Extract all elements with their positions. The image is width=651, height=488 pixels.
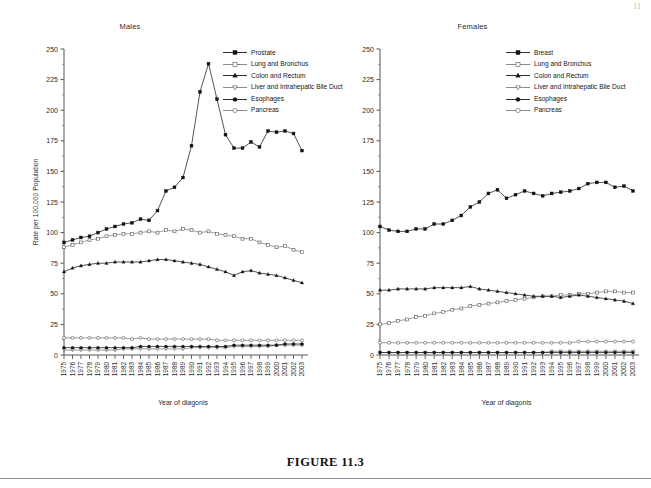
- filled-square-marker-icon: [222, 47, 248, 58]
- open-square-marker-icon: [222, 59, 248, 70]
- svg-text:250: 250: [46, 46, 58, 53]
- svg-text:25: 25: [50, 321, 58, 328]
- legend-item[interactable]: Lung and Bronchus: [505, 59, 626, 71]
- svg-text:Year of diagonis: Year of diagonis: [482, 399, 532, 407]
- svg-text:1995: 1995: [557, 362, 564, 377]
- svg-text:1984: 1984: [458, 362, 465, 377]
- legend-label: Esophages: [248, 96, 284, 103]
- svg-text:1980: 1980: [103, 362, 110, 377]
- legend-label: Colon and Rectum: [248, 73, 306, 80]
- svg-text:100: 100: [46, 229, 58, 236]
- legend-item[interactable]: Prostate: [222, 47, 343, 59]
- svg-text:200: 200: [46, 107, 58, 114]
- svg-text:1987: 1987: [162, 362, 169, 377]
- open-triangle-down-marker-icon: [505, 82, 531, 93]
- legend-item[interactable]: Pancreas: [505, 105, 626, 117]
- svg-text:100: 100: [362, 229, 374, 236]
- svg-text:150: 150: [362, 168, 374, 175]
- svg-text:250: 250: [362, 46, 374, 53]
- svg-text:2003: 2003: [629, 362, 636, 377]
- open-triangle-down-marker-icon: [222, 82, 248, 93]
- filled-circle-marker-icon: [505, 94, 531, 105]
- svg-text:1977: 1977: [77, 362, 84, 377]
- legend-item[interactable]: Liver and Intrahepatic Bile Duct: [222, 82, 343, 94]
- svg-text:1975: 1975: [60, 362, 67, 377]
- legend-label: Lung and Bronchus: [248, 61, 308, 68]
- svg-text:1983: 1983: [128, 362, 135, 377]
- svg-text:1976: 1976: [385, 362, 392, 377]
- legend-label: Pancreas: [531, 107, 562, 114]
- svg-text:225: 225: [362, 76, 374, 83]
- svg-text:75: 75: [366, 260, 374, 267]
- filled-circle-marker-icon: [222, 94, 248, 105]
- svg-text:1979: 1979: [413, 362, 420, 377]
- svg-text:2000: 2000: [602, 362, 609, 377]
- svg-text:1978: 1978: [404, 362, 411, 377]
- legend-label: Pancreas: [248, 107, 279, 114]
- svg-text:1998: 1998: [256, 362, 263, 377]
- legend-label: Lung and Bronchus: [531, 61, 591, 68]
- svg-text:1978: 1978: [86, 362, 93, 377]
- svg-text:1976: 1976: [69, 362, 76, 377]
- svg-text:1982: 1982: [440, 362, 447, 377]
- legend-item[interactable]: Pancreas: [222, 105, 343, 117]
- svg-text:1992: 1992: [530, 362, 537, 377]
- svg-text:1989: 1989: [179, 362, 186, 377]
- figure-caption: FIGURE 11.3: [0, 455, 651, 470]
- legend-item[interactable]: Breast: [505, 47, 626, 59]
- svg-text:150: 150: [46, 168, 58, 175]
- svg-text:Rate per 100,000 Population: Rate per 100,000 Population: [32, 159, 40, 246]
- svg-text:50: 50: [50, 290, 58, 297]
- legend-males: ProstateLung and BronchusColon and Rectu…: [222, 47, 343, 117]
- svg-text:25: 25: [366, 321, 374, 328]
- svg-text:1990: 1990: [512, 362, 519, 377]
- open-square-marker-icon: [505, 59, 531, 70]
- legend-item[interactable]: Colon and Rectum: [505, 70, 626, 82]
- svg-text:1988: 1988: [494, 362, 501, 377]
- svg-text:2003: 2003: [298, 362, 305, 377]
- svg-text:1997: 1997: [247, 362, 254, 377]
- svg-text:1980: 1980: [422, 362, 429, 377]
- svg-text:1999: 1999: [264, 362, 271, 377]
- svg-text:1981: 1981: [111, 362, 118, 377]
- svg-text:1993: 1993: [539, 362, 546, 377]
- legend-label: Liver and Intrahepatic Bile Duct: [531, 84, 626, 91]
- svg-text:0: 0: [54, 352, 58, 359]
- legend-item[interactable]: Colon and Rectum: [222, 70, 343, 82]
- svg-text:1990: 1990: [188, 362, 195, 377]
- legend-label: Esophages: [531, 96, 567, 103]
- legend-item[interactable]: Lung and Bronchus: [222, 59, 343, 71]
- svg-text:2001: 2001: [281, 362, 288, 377]
- svg-text:1985: 1985: [467, 362, 474, 377]
- svg-text:50: 50: [366, 290, 374, 297]
- filled-triangle-marker-icon: [222, 70, 248, 81]
- svg-text:200: 200: [362, 107, 374, 114]
- legend-item[interactable]: Liver and Intrahepatic Bile Duct: [505, 82, 626, 94]
- legend-item[interactable]: Esophages: [222, 93, 343, 105]
- open-circle-marker-icon: [222, 105, 248, 116]
- filled-square-marker-icon: [505, 47, 531, 58]
- svg-text:0: 0: [370, 352, 374, 359]
- svg-text:2002: 2002: [290, 362, 297, 377]
- svg-text:1993: 1993: [213, 362, 220, 377]
- svg-text:2000: 2000: [273, 362, 280, 377]
- svg-text:1996: 1996: [566, 362, 573, 377]
- svg-text:1979: 1979: [94, 362, 101, 377]
- legend-item[interactable]: Esophages: [505, 93, 626, 105]
- svg-text:225: 225: [46, 76, 58, 83]
- svg-text:125: 125: [46, 199, 58, 206]
- svg-text:1982: 1982: [120, 362, 127, 377]
- filled-triangle-marker-icon: [505, 70, 531, 81]
- svg-text:1987: 1987: [485, 362, 492, 377]
- svg-text:75: 75: [50, 260, 58, 267]
- svg-text:1986: 1986: [154, 362, 161, 377]
- svg-text:2001: 2001: [611, 362, 618, 377]
- svg-text:1983: 1983: [449, 362, 456, 377]
- svg-text:1991: 1991: [196, 362, 203, 377]
- svg-text:1996: 1996: [239, 362, 246, 377]
- svg-text:1986: 1986: [476, 362, 483, 377]
- svg-text:Year of diagonis: Year of diagonis: [158, 399, 208, 407]
- svg-text:1977: 1977: [394, 362, 401, 377]
- legend-label: Colon and Rectum: [531, 73, 589, 80]
- footer-rule: [0, 478, 651, 479]
